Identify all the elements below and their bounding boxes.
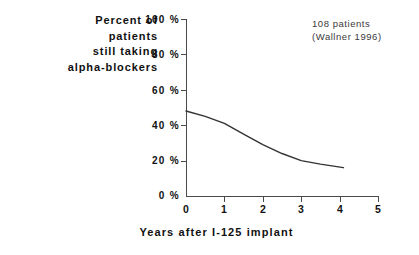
x-axis-tick-2: [263, 197, 264, 202]
x-axis-tick-3: [301, 197, 302, 202]
y-axis-tick-40: [181, 125, 187, 126]
x-tick-label-5: 5: [368, 203, 388, 215]
y-tick-label-80: 80 %: [126, 49, 180, 60]
y-tick-label-20: 20 %: [126, 155, 180, 166]
y-tick-label-100: 100 %: [126, 14, 180, 25]
chart-figure: Percent of patients still taking alpha-b…: [0, 0, 419, 255]
y-axis-title-line-2: patients: [8, 29, 158, 45]
x-tick-label-4: 4: [330, 203, 350, 215]
y-axis-line: [186, 19, 187, 197]
y-axis-tick-80: [181, 54, 187, 55]
y-tick-label-60: 60 %: [126, 85, 180, 96]
y-tick-label-40: 40 %: [126, 120, 180, 131]
x-axis-title: Years after I-125 implant: [0, 226, 419, 238]
x-axis-tick-1: [224, 197, 225, 202]
x-tick-label-2: 2: [253, 203, 273, 215]
y-axis-tick-20: [181, 161, 187, 162]
plot-area: [186, 19, 378, 196]
x-axis-line: [186, 196, 379, 197]
x-tick-label-1: 1: [214, 203, 234, 215]
y-tick-label-0: 0 %: [126, 190, 180, 201]
x-tick-label-0: 0: [176, 203, 196, 215]
x-axis-tick-4: [340, 197, 341, 202]
x-tick-label-3: 3: [291, 203, 311, 215]
x-axis-tick-5: [378, 197, 379, 202]
y-axis-tick-60: [181, 90, 187, 91]
y-axis-tick-100: [181, 19, 187, 20]
y-axis-title-line-4: alpha-blockers: [8, 60, 158, 76]
